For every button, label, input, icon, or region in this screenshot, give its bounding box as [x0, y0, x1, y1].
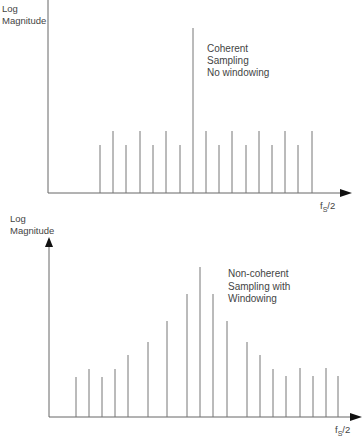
bottom-x-arrow-icon — [350, 413, 362, 421]
top-annotation: Coherent Sampling No windowing — [207, 43, 269, 79]
top-x-arrow-icon — [340, 189, 352, 197]
top-xlabel: fS/2 — [320, 200, 335, 213]
spectrum-plots — [0, 0, 363, 447]
bottom-ylabel: Log Magnitude — [10, 213, 54, 236]
bottom-xlabel: fS/2 — [335, 424, 350, 437]
bottom-annotation: Non-coherent Sampling with Windowing — [228, 268, 290, 306]
bottom-y-arrow-icon — [45, 237, 53, 247]
top-ylabel: Log Magnitude — [2, 3, 46, 26]
